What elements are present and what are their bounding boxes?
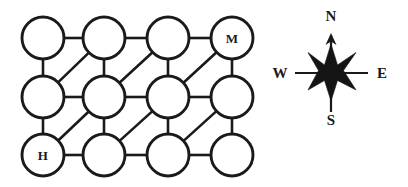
graph-node-M[interactable]: M (211, 17, 253, 59)
node-circle[interactable] (147, 76, 189, 118)
graph-node[interactable] (22, 76, 64, 118)
compass-label-north: N (326, 8, 337, 24)
node-label: H (38, 148, 48, 163)
graph-edge-diagonal (58, 53, 89, 83)
graph-node-H[interactable]: H (22, 134, 64, 176)
graph-node[interactable] (22, 17, 64, 59)
figure-root: MH N E S W (0, 0, 408, 187)
node-label: M (226, 31, 238, 46)
compass-label-east: E (377, 65, 387, 81)
node-circle[interactable] (83, 134, 125, 176)
graph-edge-diagonal (119, 52, 152, 83)
graph-edge-diagonal (183, 52, 216, 83)
graph-node[interactable] (211, 76, 253, 118)
graph-edge-diagonal (184, 111, 217, 141)
edge-layer (43, 38, 232, 155)
node-circle[interactable] (83, 76, 125, 118)
node-circle[interactable] (22, 17, 64, 59)
graph-edge-diagonal (120, 111, 153, 141)
graph-node[interactable] (211, 134, 253, 176)
compass-label-west: W (273, 65, 288, 81)
node-circle[interactable] (147, 17, 189, 59)
graph-node[interactable] (83, 134, 125, 176)
graph-node[interactable] (147, 76, 189, 118)
graph-node[interactable] (147, 17, 189, 59)
graph-node[interactable] (83, 76, 125, 118)
compass-rose: N E S W (268, 0, 408, 187)
node-circle[interactable] (211, 134, 253, 176)
graph-node[interactable] (147, 134, 189, 176)
node-circle[interactable] (83, 17, 125, 59)
grid-graph: MH (0, 0, 268, 187)
node-circle[interactable] (22, 76, 64, 118)
graph-edge-diagonal (58, 111, 89, 140)
node-circle[interactable] (147, 134, 189, 176)
compass-label-south: S (327, 112, 335, 128)
graph-node[interactable] (83, 17, 125, 59)
node-circle[interactable] (211, 76, 253, 118)
